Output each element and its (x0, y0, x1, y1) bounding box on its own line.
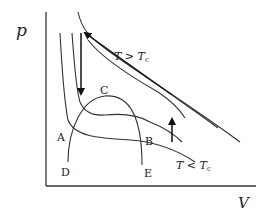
point-label-a: A (56, 131, 66, 144)
coexistence-dome (68, 96, 142, 165)
isotherm-above-critical (78, 12, 240, 142)
axes (46, 12, 256, 186)
annotation-below-critical: T < Tc (176, 159, 211, 173)
y-axis-label: p (16, 20, 27, 40)
x-axis-label: V (238, 194, 251, 212)
diagonal-arrow (85, 33, 172, 95)
point-label-e: E (144, 167, 152, 180)
pv-diagram: p V C A B D E T > Tc T < Tc (0, 0, 265, 218)
isotherm-critical (172, 95, 218, 128)
point-label-d: D (61, 166, 70, 179)
point-label-b: B (145, 135, 153, 148)
point-label-c: C (100, 84, 108, 97)
annotation-above-critical: T > Tc (114, 50, 149, 64)
